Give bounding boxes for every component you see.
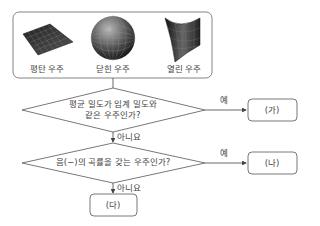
decision-2-text: 음(−)의 곡률을 갖는 우주인가?: [56, 157, 170, 168]
closed-universe-label: 닫힌 우주: [96, 65, 131, 74]
result-a-label: (가): [265, 106, 280, 115]
yes-label-1: 예: [220, 96, 228, 105]
result-c-label: (다): [106, 201, 121, 210]
no-label-1: 아니요: [117, 133, 141, 142]
sphere-icon: [91, 16, 135, 60]
flat-universe-label: 평탄 우주: [30, 65, 65, 74]
result-b-label: (나): [265, 159, 280, 168]
decision-1-text: 평균 밀도가 임계 밀도와 같은 우주인가?: [69, 99, 157, 122]
decision-1-line2: 같은 우주인가?: [69, 110, 157, 121]
yes-label-2: 예: [220, 149, 228, 158]
no-label-2: 아니요: [117, 184, 141, 193]
decision-1-line1: 평균 밀도가 임계 밀도와: [69, 99, 157, 110]
open-universe-label: 열린 우주: [167, 65, 202, 74]
